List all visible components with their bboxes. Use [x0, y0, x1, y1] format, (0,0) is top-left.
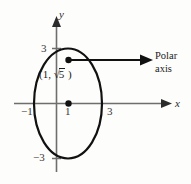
y-axis-label: y	[59, 9, 64, 20]
ellipse-polar-axis-figure: y x 3 −3 −1 1 3 (1, √5 ) Polar axis	[0, 0, 191, 184]
x-axis-label: x	[175, 98, 180, 109]
radicand: 5	[59, 68, 66, 80]
polar-axis-arrowhead	[140, 55, 153, 66]
paren-close: )	[68, 68, 72, 80]
x-tick-label-3: 3	[107, 106, 113, 117]
y-tick-label-minus-3: −3	[33, 152, 45, 163]
square-root-icon: √5	[54, 67, 66, 80]
focus-x-value: 1,	[43, 68, 51, 80]
polar-axis-annotation: Polar axis	[155, 49, 177, 75]
figure-canvas	[0, 0, 191, 184]
polar-axis-line2: axis	[155, 62, 177, 75]
focus-point-dot	[65, 57, 71, 63]
polar-axis-line1: Polar	[155, 49, 177, 62]
x-tick-label-1: 1	[65, 106, 71, 117]
x-tick-label-minus-1: −1	[21, 106, 33, 117]
focus-point-label: (1, √5 )	[39, 67, 72, 80]
y-tick-label-3: 3	[41, 43, 47, 54]
x-axis-arrowhead	[161, 99, 172, 108]
